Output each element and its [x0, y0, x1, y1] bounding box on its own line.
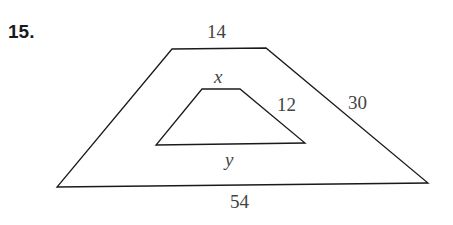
inner-top-label: x	[214, 67, 222, 86]
outer-trapezoid	[57, 48, 428, 187]
outer-right-leg-label: 30	[348, 93, 367, 112]
outer-bottom-label: 54	[230, 192, 249, 211]
outer-top-label: 14	[207, 22, 226, 41]
inner-right-leg-label: 12	[277, 95, 296, 114]
inner-bottom-label: y	[225, 150, 233, 169]
trapezoid-diagram	[0, 0, 453, 225]
